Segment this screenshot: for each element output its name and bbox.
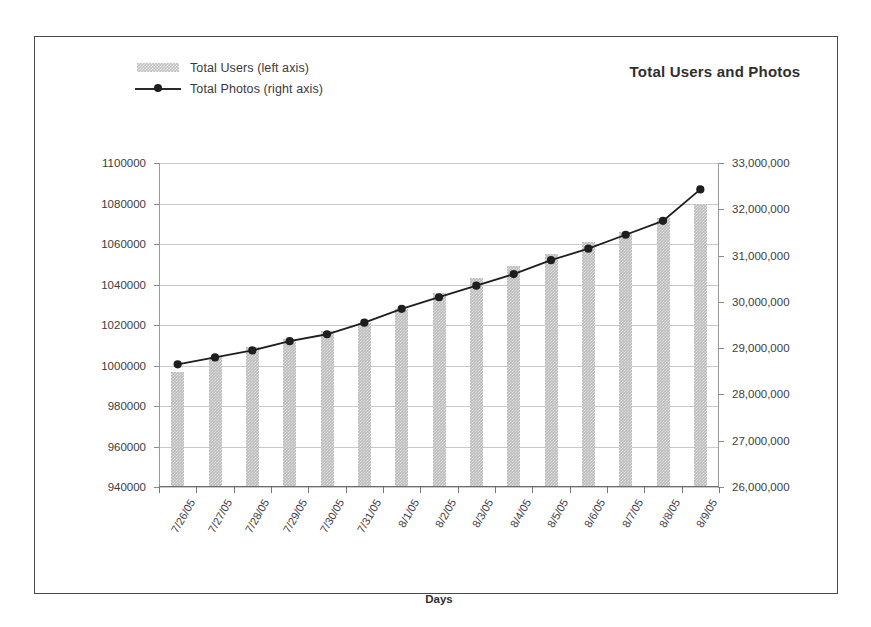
- line-marker: [584, 245, 592, 253]
- right-axis-tick-label: 28,000,000: [732, 388, 790, 400]
- left-axis-tick-label: 1020000: [101, 319, 146, 331]
- line-marker: [286, 337, 294, 345]
- x-axis-tick-label: 7/31/05: [355, 497, 384, 535]
- x-axis-tick: [196, 487, 197, 493]
- x-axis-tick-label: 7/29/05: [280, 497, 309, 535]
- x-axis-tick-label: 8/5/05: [545, 497, 571, 529]
- legend-item-total-photos: Total Photos (right axis): [135, 78, 465, 99]
- line-marker: [659, 217, 667, 225]
- legend-item-total-users: Total Users (left axis): [135, 57, 465, 78]
- x-axis-tick-label: 7/28/05: [243, 497, 272, 535]
- right-axis-tick-label: 27,000,000: [732, 435, 790, 447]
- left-axis-tick-label: 1000000: [101, 360, 146, 372]
- right-axis-tick-label: 31,000,000: [732, 250, 790, 262]
- left-axis-tick-label: 980000: [108, 400, 146, 412]
- x-axis-tick-label: 8/6/05: [582, 497, 608, 529]
- right-axis-line: [718, 163, 719, 487]
- x-axis-tick: [607, 487, 608, 493]
- left-axis-tick-label: 1060000: [101, 238, 146, 250]
- x-axis-tick-label: 8/2/05: [433, 497, 459, 529]
- left-axis-tick-label: 1100000: [102, 157, 146, 169]
- x-axis-tick: [420, 487, 421, 493]
- x-axis-tick-label: 7/26/05: [168, 497, 197, 535]
- plot-inner: 9400009600009800001000000102000010400001…: [159, 163, 719, 487]
- line-marker: [211, 353, 219, 361]
- left-axis-line: [159, 163, 160, 487]
- x-axis-tick: [719, 487, 720, 493]
- x-axis-tick-label: 8/8/05: [657, 497, 683, 529]
- x-axis-tick: [495, 487, 496, 493]
- chart-legend: Total Users (left axis) Total Photos (ri…: [135, 57, 465, 99]
- left-axis-tick-label: 1040000: [101, 279, 146, 291]
- legend-label-total-users: Total Users (left axis): [190, 61, 309, 75]
- x-axis-tick: [383, 487, 384, 493]
- line-marker: [174, 360, 182, 368]
- x-axis-tick: [570, 487, 571, 493]
- line-marker: [435, 293, 443, 301]
- right-axis-tick-label: 26,000,000: [732, 481, 790, 493]
- x-axis-tick: [682, 487, 683, 493]
- x-axis-title: Days: [159, 593, 719, 605]
- right-axis-tick-label: 33,000,000: [732, 157, 790, 169]
- legend-label-total-photos: Total Photos (right axis): [190, 82, 323, 96]
- right-axis-tick-label: 29,000,000: [732, 342, 790, 354]
- line-marker: [360, 319, 368, 327]
- x-axis-line: [159, 486, 719, 487]
- left-axis-tick-label: 1080000: [101, 198, 146, 210]
- x-axis-tick-label: 7/30/05: [318, 497, 347, 535]
- x-axis-tick: [346, 487, 347, 493]
- line-marker: [398, 305, 406, 313]
- x-axis-tick-label: 7/27/05: [206, 497, 235, 535]
- line-path: [178, 189, 701, 364]
- line-marker: [696, 185, 704, 193]
- right-axis-tick-label: 30,000,000: [732, 296, 790, 308]
- line-series-total-photos: [159, 163, 719, 487]
- x-axis-tick-label: 8/7/05: [619, 497, 645, 529]
- x-axis-tick-label: 8/9/05: [694, 497, 720, 529]
- x-axis-tick: [458, 487, 459, 493]
- chart-frame: Total Users (left axis) Total Photos (ri…: [34, 36, 838, 594]
- x-axis-tick: [308, 487, 309, 493]
- x-axis-tick-label: 8/3/05: [470, 497, 496, 529]
- left-axis-tick-label: 940000: [108, 481, 146, 493]
- plot-area: 9400009600009800001000000102000010400001…: [159, 163, 719, 487]
- bar-swatch-icon: [135, 57, 181, 78]
- line-marker: [248, 346, 256, 354]
- line-marker: [323, 330, 331, 338]
- x-axis-tick: [644, 487, 645, 493]
- right-axis-tick-label: 32,000,000: [732, 203, 790, 215]
- gridline: [159, 487, 719, 488]
- x-axis-tick: [271, 487, 272, 493]
- x-axis-tick-label: 8/4/05: [507, 497, 533, 529]
- chart-title: Total Users and Photos: [575, 63, 855, 80]
- line-marker: [510, 270, 518, 278]
- x-axis-tick: [234, 487, 235, 493]
- line-marker: [472, 282, 480, 290]
- x-axis-tick: [159, 487, 160, 493]
- line-marker: [622, 231, 630, 239]
- x-axis-tick: [532, 487, 533, 493]
- x-axis-tick-label: 8/1/05: [395, 497, 421, 529]
- left-axis-tick-label: 960000: [108, 441, 146, 453]
- line-marker-icon: [135, 78, 181, 99]
- line-marker: [547, 256, 555, 264]
